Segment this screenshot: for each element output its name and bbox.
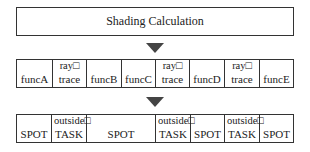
shading-calculation-box: Shading Calculation (16, 7, 294, 36)
cell-funcD: funcD (190, 60, 225, 87)
cell-funcA: funcA (17, 60, 53, 87)
cell-label: trace (53, 73, 86, 85)
cell-spot: SPOT (87, 115, 156, 142)
cell-label: SPOT (17, 128, 51, 140)
cell-label: TASK (156, 128, 190, 140)
cell-top-label: ray□ (53, 60, 86, 71)
shading-calculation-label: Shading Calculation (106, 14, 204, 29)
cell-raytrace: ray□ trace (156, 60, 190, 87)
cell-label: funcE (260, 73, 293, 85)
cell-label: funcA (17, 73, 52, 85)
cell-outside-task: outside□ TASK (52, 115, 87, 142)
cell-raytrace: ray□ trace (225, 60, 260, 87)
cell-label: TASK (52, 128, 86, 140)
function-row: funcA ray□ trace funcB funcC ray□ trace … (16, 59, 294, 88)
cell-label: TASK (225, 128, 259, 140)
cell-funcC: funcC (122, 60, 156, 87)
cell-label: SPOT (191, 128, 224, 140)
cell-spot: SPOT (17, 115, 52, 142)
cell-outside-task: outside□ TASK (225, 115, 260, 142)
cell-top-label: ray□ (156, 60, 189, 71)
cell-raytrace: ray□ trace (53, 60, 87, 87)
cell-label: SPOT (260, 128, 293, 140)
cell-top-label: ray□ (225, 60, 259, 71)
cell-label: SPOT (87, 128, 155, 140)
cell-outside-task: outside□ TASK (156, 115, 191, 142)
cell-top-label: outside□ (156, 115, 190, 126)
down-triangle-icon (146, 43, 164, 53)
cell-label: funcC (122, 73, 155, 85)
cell-label: funcB (87, 73, 121, 85)
cell-funcB: funcB (87, 60, 122, 87)
cell-label: trace (225, 73, 259, 85)
cell-spot: SPOT (260, 115, 293, 142)
cell-label: funcD (190, 73, 224, 85)
task-row: SPOT outside□ TASK SPOT outside□ TASK SP… (16, 114, 294, 143)
cell-funcE: funcE (260, 60, 293, 87)
down-triangle-icon (146, 97, 164, 107)
cell-top-label: outside□ (225, 115, 259, 126)
cell-spot: SPOT (191, 115, 225, 142)
cell-label: trace (156, 73, 189, 85)
cell-top-label: outside□ (52, 115, 86, 126)
